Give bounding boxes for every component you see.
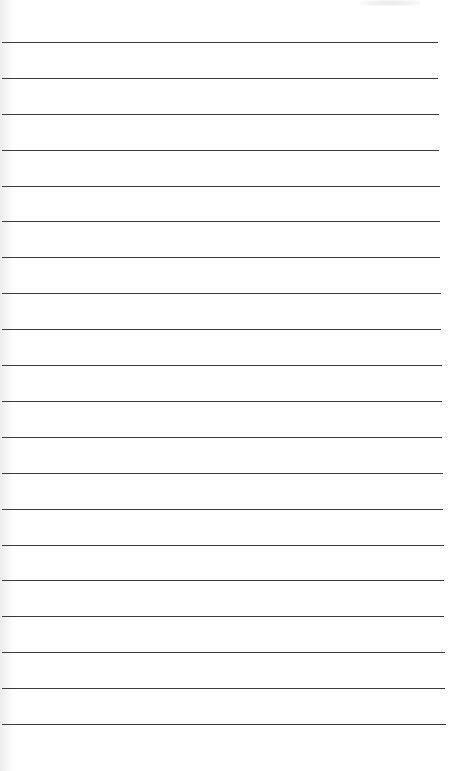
ruled-line [2, 257, 440, 258]
ruled-line [2, 724, 446, 725]
ruled-line [2, 473, 443, 474]
ruled-line [2, 42, 438, 43]
ruled-line [2, 114, 439, 115]
ruled-line [2, 437, 442, 438]
ruled-line [2, 150, 439, 151]
ruled-line [2, 186, 440, 187]
ruled-line [2, 221, 440, 222]
ruled-line [2, 688, 445, 689]
ruled-line [2, 365, 442, 366]
ruled-line [2, 293, 441, 294]
ruled-line [2, 616, 444, 617]
ruled-line [2, 401, 442, 402]
ruled-line [2, 580, 444, 581]
ruled-line [2, 78, 438, 79]
ruled-line [2, 329, 441, 330]
ruled-line [2, 652, 445, 653]
scan-smudge [360, 0, 420, 6]
binding-edge-shadow [0, 0, 14, 771]
ruled-line [2, 545, 444, 546]
lined-paper-page [0, 0, 454, 771]
ruled-line [2, 509, 443, 510]
